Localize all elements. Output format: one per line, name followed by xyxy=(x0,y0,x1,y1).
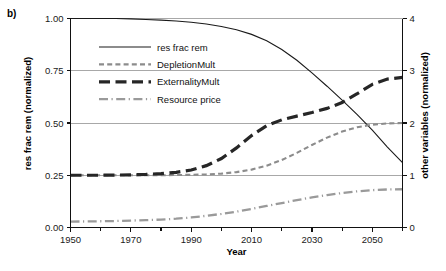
legend-label-externalitymult: ExternalityMult xyxy=(157,76,220,87)
x-tick-label: 2030 xyxy=(301,234,322,245)
y-tick-label-right: 0 xyxy=(410,222,415,233)
figure-panel-b: b) res frac rem (normalized) other varia… xyxy=(0,0,446,271)
legend-label-depletionmult: DepletionMult xyxy=(157,59,215,70)
y-tick-labels-left: 0.000.250.500.751.00 xyxy=(45,13,64,233)
y-tick-label-right: 4 xyxy=(410,13,415,24)
x-tick-label: 1990 xyxy=(181,234,202,245)
series-line-res-frac-rem xyxy=(71,19,403,163)
x-tick-label: 2050 xyxy=(362,234,383,245)
series-line-resource-price xyxy=(71,189,403,221)
chart-legend: res frac remDepletionMultExternalityMult… xyxy=(99,42,221,105)
x-tick-labels: 195019701990201020302050 xyxy=(60,234,383,245)
y-tick-label-left: 0.75 xyxy=(45,65,64,76)
legend-label-res-frac-rem: res frac rem xyxy=(157,42,208,53)
x-tick-label: 1970 xyxy=(120,234,141,245)
x-tick-label: 1950 xyxy=(60,234,81,245)
y-tick-label-right: 1 xyxy=(410,170,415,181)
line-chart-plot: 0.000.250.500.751.00 01234 1950197019902… xyxy=(0,0,446,271)
y-tick-labels-right: 01234 xyxy=(410,13,415,233)
data-series-layer xyxy=(71,19,403,222)
x-tick-label: 2010 xyxy=(241,234,262,245)
legend-label-resource-price: Resource price xyxy=(157,94,221,105)
y-tick-label-left: 0.25 xyxy=(45,170,64,181)
y-tick-label-right: 3 xyxy=(410,65,415,76)
gridlines xyxy=(71,19,403,228)
y-tick-label-left: 0.00 xyxy=(45,222,64,233)
y-tick-label-left: 1.00 xyxy=(45,13,64,24)
tick-marks-layer xyxy=(67,19,407,232)
y-tick-label-left: 0.50 xyxy=(45,118,64,129)
y-tick-label-right: 2 xyxy=(410,118,415,129)
series-line-externalitymult xyxy=(71,77,403,175)
